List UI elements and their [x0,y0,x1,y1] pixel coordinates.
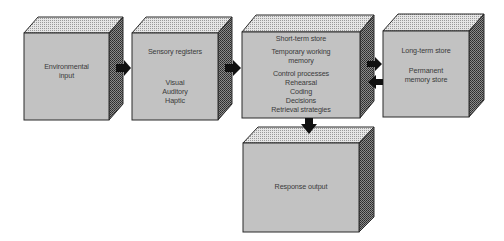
environmental-input-line-2: input [24,71,109,80]
label-environmental-input: Environmental input [24,62,109,80]
short-term-item-retrieval-strategies: Retrieval strategies [242,105,360,114]
sensory-registers-heading: Sensory registers [132,47,218,56]
short-term-store-heading: Short-term store [242,34,360,43]
label-short-term-store: Short-term store Temporary working memor… [242,34,360,114]
label-response-output: Response output [243,182,359,191]
sensory-item-auditory: Auditory [132,87,218,96]
short-term-item-rehearsal: Rehearsal [242,78,360,87]
sensory-item-visual: Visual [132,78,218,87]
environmental-input-line-1: Environmental [24,62,109,71]
short-term-item-coding: Coding [242,87,360,96]
response-output-line: Response output [243,182,359,191]
long-term-line-1: Permanent [383,66,469,75]
memory-model-diagram: Environmental input Sensory registers Vi… [0,0,504,241]
long-term-line-2: memory store [383,75,469,84]
sensory-item-haptic: Haptic [132,96,218,105]
label-sensory-registers: Sensory registers Visual Auditory Haptic [132,47,218,105]
short-term-item-control-processes: Control processes [242,69,360,78]
box-response-output [243,127,374,232]
label-long-term-store: Long-term store Permanent memory store [383,46,469,84]
short-term-sub-line-1: Temporary working [242,47,360,56]
short-term-sub-line-2: memory [242,56,360,65]
short-term-item-decisions: Decisions [242,96,360,105]
long-term-store-heading: Long-term store [383,46,469,55]
